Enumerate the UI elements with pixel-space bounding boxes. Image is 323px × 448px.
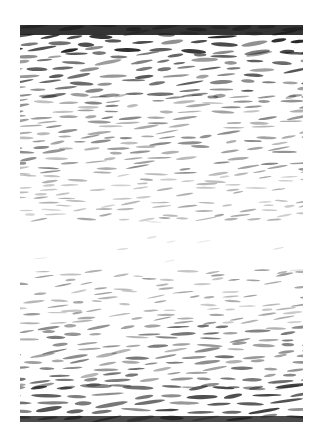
dash-texture-artwork [20,25,303,422]
dash-texture-canvas [20,25,303,422]
